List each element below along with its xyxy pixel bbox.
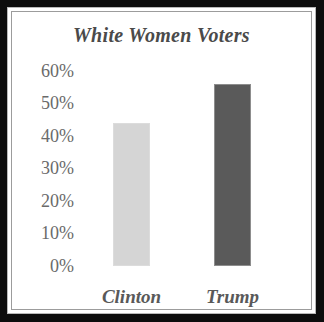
y-tick-50: 50% (12, 94, 74, 112)
y-tick-10: 10% (12, 224, 74, 242)
y-tick-40: 40% (12, 127, 74, 145)
chart-frame: White Women Voters 60% 50% 40% 30% 20% 1… (0, 0, 324, 322)
bar-trump (214, 84, 251, 266)
x-label-trump: Trump (194, 286, 271, 308)
x-label-clinton: Clinton (93, 286, 170, 308)
bar-clinton (113, 123, 150, 266)
y-tick-20: 20% (12, 192, 74, 210)
chart-inner-border: White Women Voters 60% 50% 40% 30% 20% 1… (7, 7, 316, 314)
y-tick-0: 0% (12, 257, 74, 275)
y-tick-30: 30% (12, 159, 74, 177)
plot-area: White Women Voters 60% 50% 40% 30% 20% 1… (11, 11, 312, 310)
axis-area: 60% 50% 40% 30% 20% 10% 0% Clinton Trump (12, 12, 311, 309)
y-tick-60: 60% (12, 62, 74, 80)
